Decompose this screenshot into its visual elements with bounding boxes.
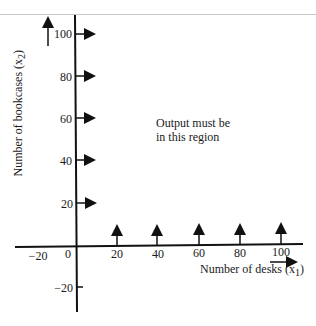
x-tick-label: 60 [193, 246, 205, 260]
y-tick-label: 100 [54, 27, 72, 41]
region-annotation: Output must be in this region [156, 116, 266, 144]
x-tick-label: 100 [272, 245, 290, 259]
x-tick-label: 0 [65, 247, 71, 261]
y-tick-label: 20 [61, 197, 73, 211]
up-arrow-icons [117, 228, 281, 246]
x-tick-label: 80 [234, 246, 246, 260]
x-axis-label: Number of desks (x1) [200, 262, 304, 278]
x-tick-label: 20 [111, 247, 123, 261]
y-tick-label: −20 [54, 281, 73, 295]
y-axis-label: Number of bookcases (x2) [11, 38, 27, 188]
x-tick-label: −20 [29, 249, 48, 263]
right-arrow-icons [76, 34, 91, 203]
y-axis [75, 15, 77, 312]
x-tick-label: 40 [152, 247, 164, 261]
y-tick-label: 40 [60, 154, 72, 168]
y-tick-label: 80 [60, 70, 72, 84]
y-tick-label: 60 [60, 112, 72, 126]
